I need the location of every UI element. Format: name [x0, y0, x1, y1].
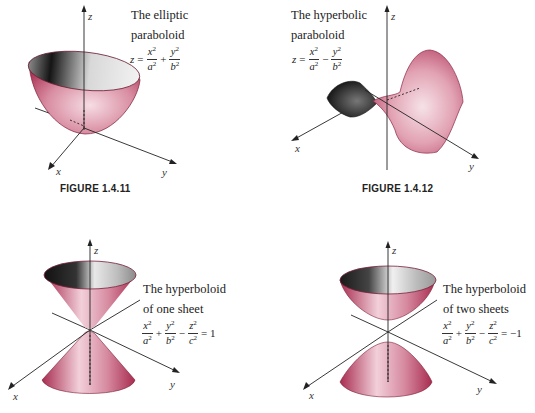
y-axis-label: y — [477, 383, 482, 395]
figure-hyperboloid-one-sheet: z x y The hyperboloid of one sheet x2a2 … — [0, 200, 265, 413]
z-axis-label: z — [391, 10, 395, 22]
x-axis-label: x — [56, 165, 61, 177]
y-axis-label: y — [170, 378, 175, 390]
equation: x2a2 + y2b2 − z2c2 = −1 — [442, 320, 522, 346]
figure-caption: FIGURE 1.4.12 — [362, 182, 433, 194]
x-axis-label: x — [295, 142, 300, 154]
figure-caption: FIGURE 1.4.11 — [60, 182, 131, 194]
figure-hyperbolic-paraboloid: z x y The hyperbolic paraboloid z = x2a2… — [265, 0, 535, 200]
z-axis-label: z — [88, 10, 92, 22]
figure-hyperboloid-two-sheets: z x y The hyperboloid of two sheets x2a2… — [265, 200, 535, 413]
figure-title-line1: The elliptic — [131, 8, 188, 23]
figure-title-line2: paraboloid — [131, 28, 184, 43]
x-axis-label: x — [13, 390, 18, 402]
equation: z = x2a2 − y2b2 — [292, 46, 342, 72]
z-axis-label: z — [94, 244, 98, 256]
figure-title-line1: The hyperboloid — [143, 282, 226, 297]
figure-title-line2: of two sheets — [443, 302, 509, 317]
figure-title-line1: The hyperboloid — [443, 282, 526, 297]
figure-title-line2: of one sheet — [143, 302, 203, 317]
equation: z = x2a2 + y2b2 — [130, 46, 180, 72]
x-axis-label: x — [309, 389, 314, 401]
z-axis-label: z — [392, 244, 396, 256]
hyperboloid-one-sheet-graphic — [0, 200, 265, 413]
y-axis-label: y — [469, 160, 474, 172]
figure-elliptic-paraboloid: z x y The elliptic paraboloid z = x2a2 +… — [0, 0, 265, 200]
equation: x2a2 + y2b2 − z2c2 = 1 — [142, 320, 216, 346]
figure-title-line1: The hyperbolic — [291, 8, 367, 23]
figure-title-line2: paraboloid — [291, 28, 344, 43]
y-axis-label: y — [162, 166, 167, 178]
